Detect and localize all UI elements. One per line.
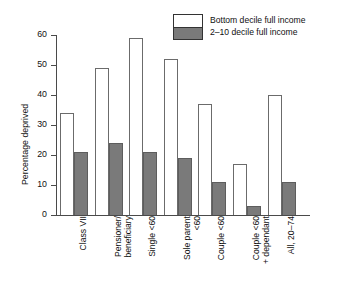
x-axis-label: All, 20–74 <box>286 216 296 300</box>
bar <box>247 206 261 215</box>
bar <box>268 95 282 215</box>
bar <box>109 143 123 215</box>
legend-item-bottom-decile-label: Bottom decile full income <box>210 14 306 26</box>
bar-chart-figure: Bottom decile full income 2–10 decile fu… <box>0 0 337 300</box>
bar <box>129 38 143 215</box>
y-axis-tick-label-50: 50 <box>37 59 47 69</box>
x-axis-label: Single <60 <box>147 216 157 300</box>
x-axis-label: Sole parent <60 <box>182 216 202 300</box>
x-axis-label: Couple <60 <box>216 216 226 300</box>
y-axis-tick-label-40: 40 <box>37 89 47 99</box>
y-axis-tick-label-30: 30 <box>37 119 47 129</box>
bar-group-container <box>56 35 310 215</box>
bar <box>74 152 88 215</box>
bar <box>198 104 212 215</box>
y-axis-tick-label-20: 20 <box>37 149 47 159</box>
bar <box>164 59 178 215</box>
y-axis-tick-label-60: 60 <box>37 29 47 39</box>
bar <box>282 182 296 215</box>
y-axis-title: Percentage deprived <box>20 0 34 185</box>
y-axis-tick-label-10: 10 <box>37 179 47 189</box>
x-axis-label: Class VII <box>78 216 88 300</box>
bar <box>95 68 109 215</box>
bar <box>143 152 157 215</box>
legend-swatch-bottom-decile-icon <box>174 15 202 27</box>
bar <box>233 164 247 215</box>
x-axis-category-labels: Class VIIPensioner/ beneficiarySingle <6… <box>56 216 310 300</box>
bar <box>212 182 226 215</box>
bar <box>60 113 74 215</box>
y-axis-tick-label-0: 0 <box>42 209 47 219</box>
x-axis-label: Pensioner/ beneficiary <box>113 216 133 300</box>
plot-area: 0102030405060 <box>56 35 310 215</box>
bar <box>178 158 192 215</box>
x-axis-label: Couple <60 + dependant <box>251 216 271 300</box>
